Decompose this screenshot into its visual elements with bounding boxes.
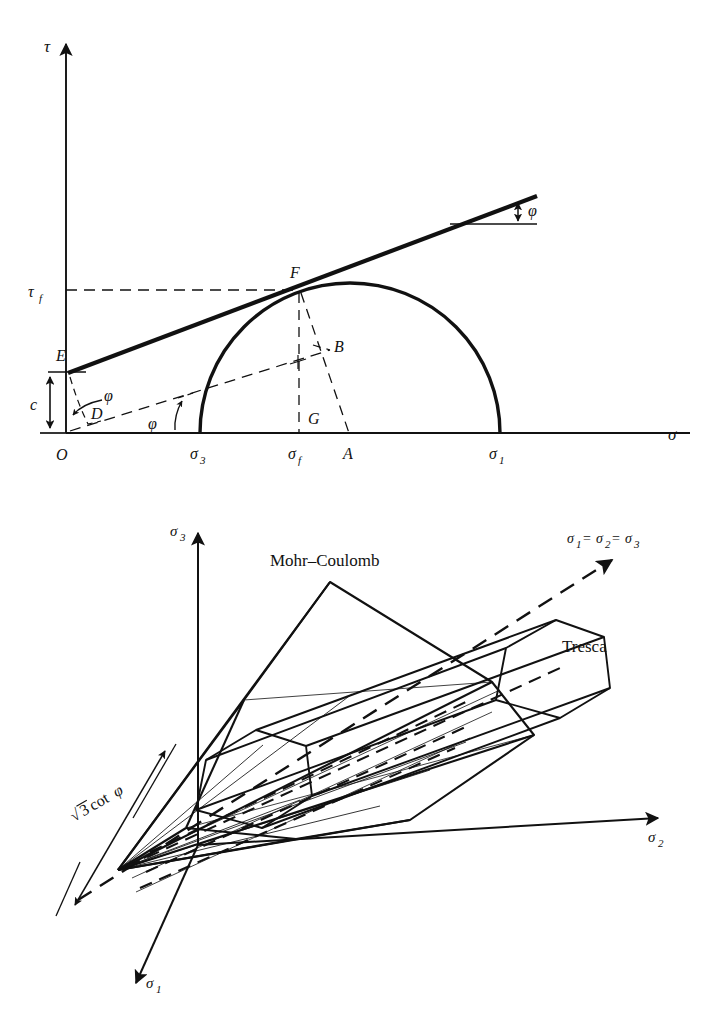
point-D-label: D (90, 405, 103, 422)
figure-canvas: τ σ τ f E c D O F B G A σ 3 σ f σ 1 φ φ … (0, 0, 705, 1011)
svg-text:σ: σ (489, 445, 498, 462)
tresca-hidden-2 (146, 725, 470, 872)
tresca-edge-1 (196, 700, 496, 810)
svg-text:σ: σ (625, 531, 633, 546)
svg-text:2: 2 (605, 538, 611, 550)
mc-base-edge-close (186, 700, 244, 828)
point-A-label: A (342, 445, 353, 462)
top-figure-group: τ σ τ f E c D O F B G A σ 3 σ f σ 1 φ φ … (28, 37, 690, 466)
svg-text:φ: φ (109, 781, 126, 801)
svg-text:σ: σ (596, 531, 604, 546)
svg-text:f: f (298, 454, 303, 466)
phi-label-at-E: φ (104, 387, 113, 405)
svg-text:3: 3 (179, 531, 186, 543)
sigma2-axis-label: σ 2 (648, 829, 664, 849)
tau-axis-label: τ (44, 37, 51, 56)
cohesion-label: c (30, 396, 37, 413)
dimension-leader-right (133, 744, 176, 818)
tresca-edge-3 (256, 620, 556, 730)
sigma-3-label-top: σ 3 (190, 445, 206, 466)
phi-label-envelope: φ (528, 202, 537, 220)
mohr-coulomb-label: Mohr–Coulomb (270, 551, 380, 570)
svg-text:2: 2 (658, 837, 664, 849)
sigma1-axis-label: σ 1 (146, 975, 162, 995)
phi-arc-on-sigma-axis (175, 401, 182, 430)
svg-text:cot: cot (86, 789, 112, 814)
tresca-label: Tresca (562, 637, 607, 656)
tresca-edge-6 (262, 718, 560, 828)
tresca-far-cap (496, 620, 610, 718)
svg-text:1: 1 (156, 983, 162, 995)
svg-text:3: 3 (199, 454, 206, 466)
bottom-figure-group: σ 3 σ 2 σ 1 Mohr–Coulomb Tresca σ 1 = σ … (56, 523, 664, 995)
sigma-1-label-top: σ 1 (489, 445, 505, 466)
point-E-label: E (55, 347, 66, 364)
svg-text:3: 3 (633, 538, 640, 550)
svg-text:σ: σ (146, 975, 154, 991)
svg-text:σ: σ (170, 523, 178, 539)
svg-text:1: 1 (499, 454, 505, 466)
apex-distance-dimension (56, 744, 176, 916)
svg-text:=: = (612, 531, 620, 546)
hydrostatic-axis-label: σ 1 = σ 2 = σ 3 (567, 531, 640, 550)
point-G-label: G (308, 410, 320, 427)
svg-text:σ: σ (288, 445, 297, 462)
mc-edge-apex-upperleft (118, 700, 244, 870)
phi-ref-tick-mid (178, 393, 193, 398)
diagram-svg: τ σ τ f E c D O F B G A σ 3 σ f σ 1 φ φ … (0, 0, 705, 1011)
origin-label: O (56, 446, 68, 463)
svg-text:τ: τ (28, 283, 35, 300)
sigma-axis-label: σ (668, 425, 677, 444)
tau-f-label: τ f (28, 283, 44, 304)
svg-text:f: f (39, 292, 44, 304)
sigma-f-label: σ f (288, 445, 303, 466)
point-B-label: B (334, 338, 344, 355)
svg-text:σ: σ (190, 445, 199, 462)
dashed-line-B-corner (313, 345, 330, 350)
point-F-label: F (289, 264, 300, 281)
phi-label-on-sigma-axis: φ (148, 415, 157, 433)
sigma3-axis-label: σ 3 (170, 523, 186, 543)
tresca-prism (196, 620, 610, 828)
mohr-coulomb-pyramid (118, 582, 534, 870)
svg-text:=: = (583, 531, 591, 546)
tresca-edge-4 (306, 637, 604, 746)
svg-text:1: 1 (576, 538, 582, 550)
apex-distance-label: √ 3 cot φ (67, 781, 126, 826)
svg-text:σ: σ (648, 829, 656, 845)
dimension-leader-left (56, 862, 80, 916)
svg-text:σ: σ (567, 531, 575, 546)
failure-envelope-line (68, 196, 537, 373)
